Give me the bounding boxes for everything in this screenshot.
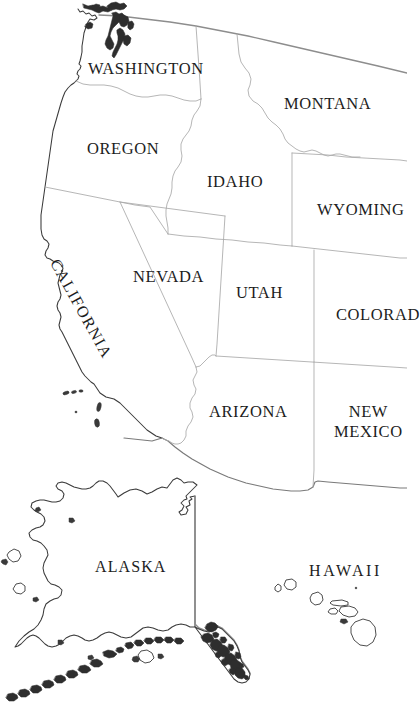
- label-montana: MONTANA: [284, 94, 371, 113]
- label-oregon: OREGON: [87, 139, 159, 158]
- island-dot: [355, 587, 357, 589]
- border-wy-south: [292, 246, 407, 258]
- border-nv-ut: [216, 216, 225, 356]
- border-or-id: [166, 99, 201, 234]
- island-kauai: [284, 579, 296, 590]
- label-arizona: ARIZONA: [209, 402, 287, 421]
- mexico-us-border: [124, 438, 407, 491]
- label-idaho: IDAHO: [207, 172, 263, 191]
- island-kahoolawe: [340, 619, 348, 624]
- island-niihau: [275, 584, 281, 592]
- alaska-outline: [1, 478, 250, 701]
- border-nv-az: [196, 355, 216, 367]
- island-hawaii-big: [351, 619, 376, 646]
- border-ca-az: [162, 367, 197, 444]
- label-new-mexico-line1: NEW: [334, 402, 403, 421]
- island-lanai: [328, 608, 338, 614]
- border-mt-wy: [292, 153, 407, 161]
- hawaii-islands: [275, 579, 376, 646]
- aleutian-chain: [6, 637, 184, 701]
- label-wyoming: WYOMING: [317, 200, 405, 219]
- border-id-south: [168, 234, 292, 246]
- island-molokai: [330, 600, 348, 606]
- label-new-mexico-line2: MEXICO: [334, 422, 403, 441]
- label-new-mexico: NEW MEXICO: [334, 402, 403, 441]
- label-hawaii: HAWAII: [309, 562, 382, 581]
- border-ut-az: [216, 356, 407, 368]
- label-colorado: COLORAD: [336, 305, 420, 324]
- island-oahu: [310, 592, 323, 605]
- border-az-nm: [313, 362, 314, 487]
- puget-sound-detail: [83, 2, 134, 58]
- label-nevada: NEVADA: [133, 267, 204, 286]
- label-alaska: ALASKA: [95, 558, 167, 577]
- island-maui: [339, 606, 358, 617]
- label-utah: UTAH: [236, 283, 283, 302]
- border-or-nv-lat: [120, 202, 225, 216]
- label-washington: WASHINGTON: [88, 59, 204, 78]
